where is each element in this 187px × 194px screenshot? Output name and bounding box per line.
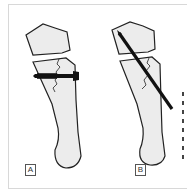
panel-a-label: A: [25, 164, 36, 176]
panel-b-label: B: [135, 164, 146, 176]
truncated-side-text: [182, 92, 187, 164]
panel-b: [112, 22, 172, 165]
panel-b-lower-bone: [120, 57, 165, 165]
panel-a-upper-bone: [26, 24, 70, 55]
panel-b-upper-bone: [112, 22, 155, 54]
panel-a: [26, 24, 81, 168]
